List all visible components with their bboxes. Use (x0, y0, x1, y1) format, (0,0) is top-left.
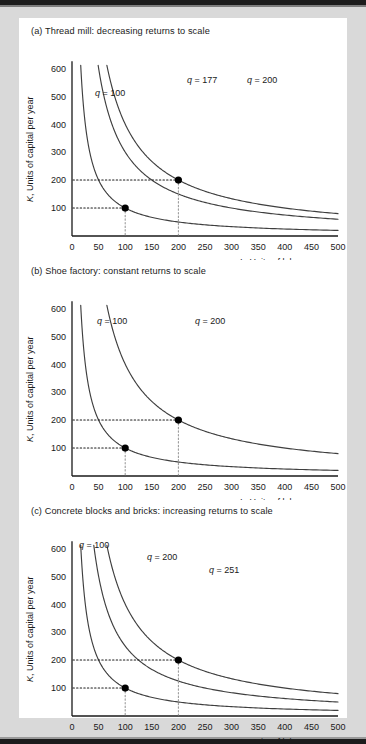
svg-text:400: 400 (51, 120, 66, 130)
svg-text:400: 400 (277, 722, 292, 732)
svg-text:500: 500 (330, 242, 345, 252)
curve-label: q = 200 (195, 316, 225, 326)
y-axis-title: K, Units of capital per year (25, 337, 35, 443)
x-tick-labels: 050100150200250300350400450500 (69, 482, 345, 492)
panel-a-title: (a) Thread mill: decreasing returns to s… (31, 26, 210, 36)
panel-c: (c) Concrete blocks and bricks: increasi… (19, 498, 347, 718)
data-point-markers (122, 416, 182, 451)
svg-text:100: 100 (118, 242, 133, 252)
svg-text:450: 450 (304, 242, 319, 252)
curve-label: q = 177 (187, 75, 217, 85)
y-tick-labels: 600500400300200100 (51, 304, 66, 454)
svg-text:600: 600 (51, 544, 66, 554)
curve-label: q = 100 (95, 88, 125, 98)
y-tick-labels: 600500400300200100 (51, 64, 66, 214)
svg-text:350: 350 (251, 242, 266, 252)
isoquant-chart: 6005004003002001000501001502002503003504… (19, 520, 347, 740)
svg-text:200: 200 (51, 415, 66, 425)
isoquant-curve (98, 65, 338, 219)
curve-label: q = 100 (79, 540, 109, 550)
svg-text:300: 300 (51, 387, 66, 397)
svg-text:300: 300 (51, 627, 66, 637)
data-point-marker (122, 684, 129, 691)
data-point-marker (122, 444, 129, 451)
svg-text:200: 200 (171, 482, 186, 492)
svg-text:400: 400 (51, 360, 66, 370)
svg-text:150: 150 (144, 482, 159, 492)
svg-text:100: 100 (118, 482, 133, 492)
svg-text:250: 250 (197, 722, 212, 732)
svg-text:500: 500 (330, 722, 345, 732)
svg-text:100: 100 (118, 722, 133, 732)
svg-text:200: 200 (171, 722, 186, 732)
svg-text:600: 600 (51, 304, 66, 314)
svg-text:500: 500 (51, 92, 66, 102)
panel-b-title: (b) Shoe factory: constant returns to sc… (31, 266, 206, 276)
svg-text:200: 200 (51, 175, 66, 185)
svg-text:350: 350 (251, 482, 266, 492)
isoquant-chart: 6005004003002001000501001502002503003504… (19, 280, 347, 500)
svg-text:50: 50 (94, 722, 104, 732)
isoquant-curves (81, 305, 338, 470)
svg-text:0: 0 (69, 242, 74, 252)
panel-c-title: (c) Concrete blocks and bricks: increasi… (31, 506, 273, 516)
curve-labels: q = 100q = 200 (97, 316, 225, 326)
svg-text:400: 400 (51, 600, 66, 610)
y-axis-title: K, Units of capital per year (25, 97, 35, 203)
svg-text:450: 450 (304, 482, 319, 492)
isoquant-curve (107, 305, 338, 453)
y-axis-title: K, Units of capital per year (25, 577, 35, 683)
page-top-rule-shadow (0, 5, 366, 7)
svg-text:500: 500 (51, 332, 66, 342)
svg-text:250: 250 (197, 482, 212, 492)
data-point-marker (175, 416, 182, 423)
data-point-marker (175, 176, 182, 183)
svg-text:100: 100 (51, 443, 66, 453)
data-point-markers (122, 176, 182, 211)
curve-label: q = 251 (209, 565, 239, 575)
svg-text:300: 300 (224, 242, 239, 252)
curve-labels: q = 100q = 200q = 251 (79, 540, 239, 575)
x-tick-labels: 050100150200250300350400450500 (69, 722, 345, 732)
panel-b: (b) Shoe factory: constant returns to sc… (19, 258, 347, 504)
svg-text:300: 300 (51, 147, 66, 157)
curve-label: q = 200 (247, 75, 277, 85)
isoquant-chart: 6005004003002001000501001502002503003504… (19, 40, 347, 260)
svg-text:100: 100 (51, 683, 66, 693)
svg-text:400: 400 (277, 242, 292, 252)
curve-label: q = 200 (147, 552, 177, 562)
svg-text:0: 0 (69, 722, 74, 732)
svg-text:200: 200 (51, 655, 66, 665)
svg-text:50: 50 (94, 242, 104, 252)
svg-text:350: 350 (251, 722, 266, 732)
x-axis-title: L, Units of labor per year (239, 737, 338, 740)
panel-a: (a) Thread mill: decreasing returns to s… (19, 18, 347, 264)
panel-c-plot: 6005004003002001000501001502002503003504… (19, 520, 347, 740)
data-point-marker (122, 204, 129, 211)
svg-text:250: 250 (197, 242, 212, 252)
svg-text:450: 450 (304, 722, 319, 732)
figure-card: (a) Thread mill: decreasing returns to s… (19, 18, 347, 718)
isoquant-curve (107, 65, 338, 213)
svg-text:600: 600 (51, 64, 66, 74)
svg-text:400: 400 (277, 482, 292, 492)
svg-text:200: 200 (171, 242, 186, 252)
x-tick-labels: 050100150200250300350400450500 (69, 242, 345, 252)
data-point-marker (175, 656, 182, 663)
panel-a-plot: 6005004003002001000501001502002503003504… (19, 40, 347, 260)
panel-b-plot: 6005004003002001000501001502002503003504… (19, 280, 347, 500)
isoquant-curve (81, 305, 338, 470)
curve-labels: q = 100q = 177q = 200 (95, 75, 277, 98)
svg-text:0: 0 (69, 482, 74, 492)
svg-text:300: 300 (224, 722, 239, 732)
data-point-markers (122, 656, 182, 691)
svg-text:500: 500 (51, 572, 66, 582)
svg-text:150: 150 (144, 242, 159, 252)
y-tick-labels: 600500400300200100 (51, 544, 66, 694)
svg-text:500: 500 (330, 482, 345, 492)
svg-text:100: 100 (51, 203, 66, 213)
svg-text:150: 150 (144, 722, 159, 732)
svg-text:50: 50 (94, 482, 104, 492)
svg-text:300: 300 (224, 482, 239, 492)
curve-label: q = 100 (97, 316, 127, 326)
